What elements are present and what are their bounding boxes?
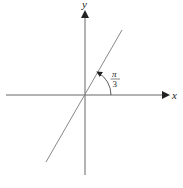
angle-numerator: π <box>112 69 117 79</box>
x-axis-label: x <box>171 89 177 101</box>
angle-denominator: 3 <box>113 79 118 89</box>
footer-fragment: π <box>155 184 161 188</box>
angle-arc <box>98 73 111 96</box>
coordinate-diagram: y x π 3 π <box>0 0 183 188</box>
y-axis-label: y <box>81 0 87 10</box>
line-through-origin <box>46 30 122 162</box>
